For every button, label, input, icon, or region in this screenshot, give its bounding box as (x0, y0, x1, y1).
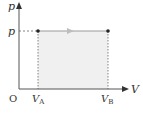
v-axis-arrowhead-icon (122, 86, 129, 92)
pv-diagram: p p V O VA VB (0, 0, 143, 114)
work-area-shading (38, 31, 108, 89)
p-axis-label: p (8, 0, 15, 13)
point-a (36, 29, 40, 33)
vb-label-sub: B (108, 98, 113, 106)
origin-label: O (9, 93, 17, 104)
va-label: VA (32, 93, 45, 106)
p-axis-arrowhead-icon (16, 2, 22, 9)
vb-label: VB (101, 93, 113, 106)
va-label-sub: A (38, 98, 45, 106)
pressure-level-label: p (8, 25, 15, 38)
point-b (106, 29, 110, 33)
v-axis-label: V (131, 83, 140, 96)
